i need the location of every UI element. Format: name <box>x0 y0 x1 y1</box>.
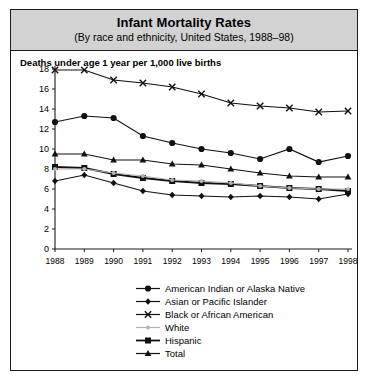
data-point <box>228 194 234 200</box>
x-tick-label: 1990 <box>104 256 123 266</box>
y-tick-label: 14 <box>39 104 49 114</box>
legend-key-svg <box>135 347 161 360</box>
data-point <box>111 115 117 121</box>
data-point <box>346 187 350 191</box>
legend-key-svg <box>135 282 161 295</box>
data-point <box>228 150 234 156</box>
data-point <box>52 178 58 184</box>
data-point <box>52 119 58 125</box>
data-point <box>198 146 204 152</box>
x-tick-label: 1992 <box>163 256 182 266</box>
data-point <box>229 181 233 185</box>
x-tick-label: 1993 <box>192 256 211 266</box>
legend-item-label: American Indian or Alaska Native <box>161 282 305 295</box>
x-tick-label: 1988 <box>46 256 65 266</box>
x-tick-label: 1996 <box>280 256 299 266</box>
data-point <box>141 174 145 178</box>
data-point <box>286 146 292 152</box>
data-point <box>169 192 175 198</box>
y-tick-label: 16 <box>39 84 49 94</box>
x-tick-label: 1995 <box>251 256 270 266</box>
data-point <box>257 193 263 199</box>
x-tick-label: 1994 <box>221 256 240 266</box>
chart-figure: Infant Mortality Rates (By race and ethn… <box>10 9 358 371</box>
legend-item-label: Black or African American <box>161 308 273 321</box>
legend-key-svg <box>135 334 161 347</box>
legend-key-marker <box>145 298 151 304</box>
legend-item-white[interactable]: White <box>135 321 357 334</box>
y-tick-label: 2 <box>44 224 49 234</box>
data-point <box>286 194 292 200</box>
legend-item-label: Asian or Pacific Islander <box>161 295 267 308</box>
data-point <box>257 156 263 162</box>
legend-key-marker <box>145 285 151 291</box>
data-point <box>287 186 291 190</box>
legend-key-marker <box>146 326 150 330</box>
series-black-or-african-american <box>52 67 351 115</box>
legend-key-svg <box>135 308 161 321</box>
legend-marker-square-icon <box>135 334 161 347</box>
chart-subtitle: (By race and ethnicity, United States, 1… <box>11 30 357 44</box>
legend-item-hispanic[interactable]: Hispanic <box>135 334 357 347</box>
data-point <box>112 171 116 175</box>
y-tick-label: 4 <box>44 204 49 214</box>
y-tick-label: 18 <box>39 64 49 74</box>
data-point <box>82 167 86 171</box>
data-point <box>53 167 57 171</box>
y-tick-label: 12 <box>39 124 49 134</box>
chart-legend: American Indian or Alaska NativeAsian or… <box>11 282 357 360</box>
legend-item-label: White <box>161 321 189 334</box>
data-point <box>200 179 204 183</box>
legend-item-label: Hispanic <box>161 334 201 347</box>
x-tick-label: 1997 <box>309 256 328 266</box>
legend-item-total[interactable]: Total <box>135 347 357 360</box>
plot-area: 0246810121416181988198919901991199219931… <box>11 51 357 276</box>
data-point <box>317 187 321 191</box>
legend-item-label: Total <box>161 347 185 360</box>
data-point <box>140 188 146 194</box>
series-line <box>55 70 348 112</box>
data-point <box>316 159 322 165</box>
legend-marker-circle-icon <box>135 282 161 295</box>
data-point <box>258 184 262 188</box>
x-tick-label: 1989 <box>75 256 94 266</box>
legend-marker-circle-small-icon <box>135 321 161 334</box>
chart-header: Infant Mortality Rates (By race and ethn… <box>11 10 357 51</box>
legend-item-black-or-african-american[interactable]: Black or African American <box>135 308 357 321</box>
data-point <box>81 113 87 119</box>
x-tick-label: 1991 <box>133 256 152 266</box>
legend-key-svg <box>135 295 161 308</box>
series-american-indian-or-alaska-native <box>52 113 351 165</box>
data-point <box>169 140 175 146</box>
series-line <box>55 116 348 162</box>
legend-item-american-indian-or-alaska-native[interactable]: American Indian or Alaska Native <box>135 282 357 295</box>
y-tick-label: 6 <box>44 184 49 194</box>
legend-marker-diamond-icon <box>135 295 161 308</box>
data-point <box>345 153 351 159</box>
data-point <box>140 133 146 139</box>
data-point <box>111 180 117 186</box>
legend-marker-triangle-icon <box>135 347 161 360</box>
line-chart-svg: 0246810121416181988198919901991199219931… <box>11 51 359 276</box>
y-tick-label: 0 <box>44 244 49 254</box>
data-point <box>199 193 205 199</box>
y-tick-label: 8 <box>44 164 49 174</box>
x-tick-label: 1998 <box>339 256 358 266</box>
legend-key-svg <box>135 321 161 334</box>
data-point <box>81 172 87 178</box>
chart-title: Infant Mortality Rates <box>11 10 357 30</box>
data-point <box>316 196 322 202</box>
legend-key-marker <box>145 338 151 344</box>
series-total <box>52 150 352 179</box>
data-point <box>170 178 174 182</box>
y-tick-label: 10 <box>39 144 49 154</box>
legend-marker-cross-icon <box>135 308 161 321</box>
legend-item-asian-or-pacific-islander[interactable]: Asian or Pacific Islander <box>135 295 357 308</box>
